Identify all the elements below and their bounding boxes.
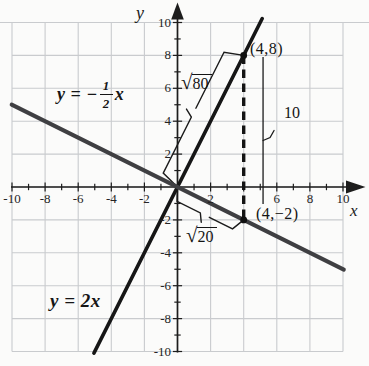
y-axis-label: y <box>136 4 144 23</box>
sqrt-20-length-label: √ 20 <box>186 226 217 246</box>
x-tick-label: 6 <box>262 192 292 205</box>
measure-10-brace-tick <box>263 130 274 140</box>
y-tick-label: -10 <box>143 345 171 358</box>
x-tick-label: -2 <box>129 192 159 205</box>
equation-suffix: x <box>115 85 125 104</box>
plot-canvas <box>0 0 369 366</box>
y-tick-label: 10 <box>143 16 171 29</box>
sqrt-80-length-label: √ 80 <box>181 73 212 93</box>
y-axis-arrowhead <box>171 3 184 20</box>
equation-label-y-neg-half-x: y = − 1 2 x <box>57 79 124 110</box>
point-dot <box>240 217 247 224</box>
x-tick-label: -4 <box>96 192 126 205</box>
y-tick-label: -8 <box>143 312 171 325</box>
equation-prefix: y = − <box>57 85 98 104</box>
distance-10-label: 10 <box>284 105 300 122</box>
radicand: 20 <box>197 227 217 246</box>
y-tick-label: 8 <box>143 48 171 61</box>
x-tick-label: 8 <box>295 192 325 205</box>
x-tick-label: -10 <box>0 192 27 205</box>
coordinate-plane-figure: -10-8-6-4-226810108642-2-4-6-8-10 y x y … <box>0 0 369 366</box>
fraction: 1 2 <box>100 79 113 110</box>
y-tick-label: 4 <box>143 114 171 127</box>
y-tick-label: 2 <box>143 147 171 160</box>
y-tick-label: 6 <box>143 81 171 94</box>
x-tick-label: -8 <box>30 192 60 205</box>
y-tick-label: -4 <box>143 246 171 259</box>
y-tick-label: -2 <box>143 213 171 226</box>
point-dot <box>240 52 247 59</box>
y-tick-label: -6 <box>143 279 171 292</box>
point-label-4-neg2: (4,−2) <box>256 206 299 223</box>
x-tick-label: -6 <box>63 192 93 205</box>
radicand: 80 <box>192 74 212 93</box>
x-axis-label: x <box>350 202 358 220</box>
equation-label-y-2x: y = 2x <box>50 291 101 311</box>
fraction-denominator: 2 <box>103 95 110 110</box>
x-tick-label: 2 <box>196 192 226 205</box>
point-label-4-8: (4,8) <box>250 41 283 58</box>
fraction-numerator: 1 <box>100 79 113 95</box>
